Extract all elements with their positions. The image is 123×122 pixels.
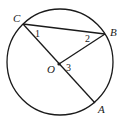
angle-label-3: 3 [66,62,71,73]
circle-o [7,9,113,115]
label-c: C [13,12,21,24]
angle-label-2: 2 [85,33,90,44]
angle-label-1: 1 [35,28,40,39]
label-b: B [110,26,117,38]
circle-diagram: C B A O 1 2 3 [0,0,123,122]
label-o: O [47,63,55,75]
segment-ob [59,34,105,64]
label-a: A [97,103,105,115]
center-point-o [57,62,60,65]
